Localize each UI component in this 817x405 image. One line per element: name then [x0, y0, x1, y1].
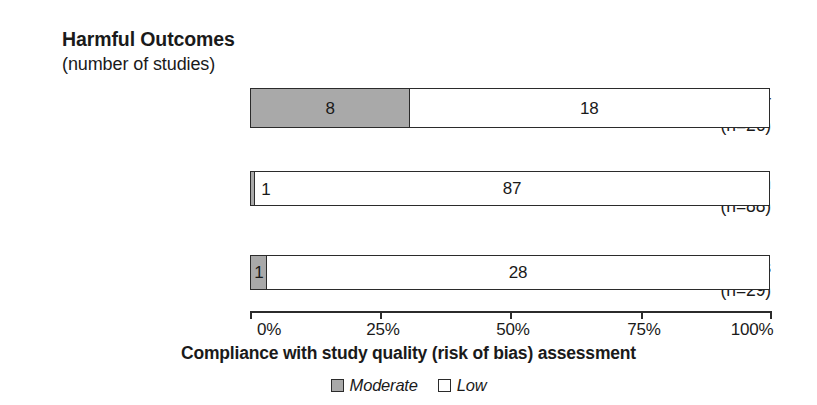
- bar-value-cancer-moderate: 8: [326, 100, 335, 117]
- x-axis-title: Compliance with study quality (risk of b…: [0, 343, 817, 364]
- bar-row-fluorosis: 1 87: [250, 171, 771, 206]
- bar-segment-cancer-moderate[interactable]: 8: [250, 88, 410, 128]
- x-axis-label-100: 100%: [731, 320, 774, 340]
- legend-label-low: Low: [457, 376, 487, 395]
- chart-title: Harmful Outcomes: [62, 28, 235, 51]
- bar-segment-bone-fractures-moderate[interactable]: 1: [250, 255, 268, 290]
- chart-subtitle: (number of studies): [62, 54, 215, 75]
- bar-value-cancer-low: 18: [580, 100, 599, 117]
- legend-label-moderate: Moderate: [350, 376, 418, 395]
- x-axis-label-50: 50%: [496, 320, 529, 340]
- x-axis-tick-100: [770, 311, 772, 319]
- chart-legend: Moderate Low: [0, 376, 817, 395]
- legend-swatch-low-icon: [438, 379, 451, 392]
- bar-row-bone-fractures: 1 28: [250, 255, 771, 290]
- bar-segment-fluorosis-low[interactable]: 1 87: [254, 171, 769, 206]
- legend-swatch-moderate-icon: [331, 379, 344, 392]
- bar-value-fluorosis-low: 87: [503, 180, 522, 197]
- x-axis-label-0: 0%: [257, 320, 281, 340]
- bar-value-bone-fractures-low: 28: [509, 264, 528, 281]
- legend-item-low[interactable]: Low: [438, 376, 487, 395]
- bar-value-bone-fractures-moderate: 1: [254, 264, 263, 281]
- bar-segment-cancer-low[interactable]: 18: [409, 88, 770, 128]
- x-axis-tick-25: [380, 311, 382, 319]
- x-axis-tick-50: [510, 311, 512, 319]
- legend-item-moderate[interactable]: Moderate: [331, 376, 418, 395]
- bar-segment-bone-fractures-low[interactable]: 28: [266, 255, 769, 290]
- x-axis-label-75: 75%: [627, 320, 660, 340]
- chart-canvas: Harmful Outcomes (number of studies) Can…: [0, 0, 817, 405]
- bar-row-cancer: 8 18: [250, 88, 771, 128]
- x-axis-tick-75: [641, 311, 643, 319]
- x-axis-tick-0: [250, 311, 252, 319]
- x-axis-label-25: 25%: [366, 320, 399, 340]
- bar-value-fluorosis-moderate: 1: [261, 180, 270, 197]
